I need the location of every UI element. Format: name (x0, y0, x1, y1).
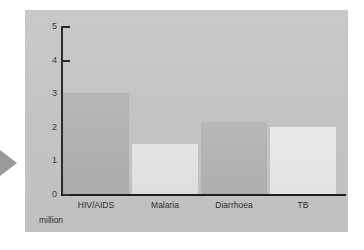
bar-diarrhoea (201, 122, 267, 194)
x-axis-label-tb: TB (270, 200, 336, 210)
y-axis-tick-5 (63, 26, 70, 28)
right-triangle-pointer-icon (0, 150, 17, 176)
axis-unit-label: million (39, 215, 63, 225)
x-axis-line (61, 194, 346, 196)
y-axis-tick-label-2: 2 (43, 123, 57, 132)
bar-hiv-aids (63, 93, 129, 194)
bar-malaria (132, 144, 198, 194)
y-axis-tick-label-1: 1 (43, 156, 57, 165)
x-axis-label-malaria: Malaria (132, 200, 198, 210)
plot-area: 5 4 3 2 1 0 HIV/AIDS Malaria Diarrhoea T… (25, 10, 348, 232)
y-axis-tick-label-4: 4 (43, 56, 57, 65)
y-axis-tick-4 (63, 60, 70, 62)
y-axis-tick-label-5: 5 (43, 22, 57, 31)
x-axis-label-diarrhoea: Diarrhoea (201, 200, 267, 210)
bar-tb (270, 127, 336, 194)
x-axis-label-hiv-aids: HIV/AIDS (63, 200, 129, 210)
y-axis-tick-label-3: 3 (43, 89, 57, 98)
chart-panel: 5 4 3 2 1 0 HIV/AIDS Malaria Diarrhoea T… (25, 10, 348, 232)
bar-chart-figure: 5 4 3 2 1 0 HIV/AIDS Malaria Diarrhoea T… (0, 0, 364, 250)
y-axis-tick-label-0: 0 (43, 190, 57, 199)
y-axis-tick-0 (63, 194, 70, 196)
